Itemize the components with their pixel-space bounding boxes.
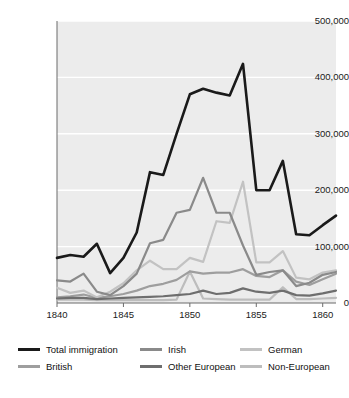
y-axis-tick-0: 0 bbox=[297, 298, 349, 308]
legend-swatch-german bbox=[240, 348, 262, 351]
x-axis-tick-1850: 1850 bbox=[170, 310, 210, 320]
legend-item-british[interactable]: British bbox=[18, 361, 72, 372]
legend-row-2: British Other European Non-European bbox=[18, 361, 338, 378]
x-axis-tick-1855: 1855 bbox=[236, 310, 276, 320]
y-axis-tick-400000: 400,000 bbox=[297, 72, 349, 82]
y-axis-tick-100000: 100,000 bbox=[297, 242, 349, 252]
legend-label-german: German bbox=[268, 344, 302, 355]
chart-legend: Total immigration Irish German British O… bbox=[18, 344, 338, 378]
chart-canvas bbox=[0, 0, 349, 398]
legend-label-other-european: Other European bbox=[168, 361, 236, 372]
legend-label-british: British bbox=[46, 361, 72, 372]
immigration-line-chart: 0100,000200,000300,000400,000500,000 184… bbox=[0, 0, 349, 398]
legend-item-non-european[interactable]: Non-European bbox=[240, 361, 330, 372]
legend-label-total-immigration: Total immigration bbox=[46, 344, 118, 355]
legend-item-total-immigration[interactable]: Total immigration bbox=[18, 344, 118, 355]
legend-row-1: Total immigration Irish German bbox=[18, 344, 338, 361]
legend-item-german[interactable]: German bbox=[240, 344, 302, 355]
y-axis-tick-200000: 200,000 bbox=[297, 185, 349, 195]
x-axis-tick-1845: 1845 bbox=[103, 310, 143, 320]
legend-item-other-european[interactable]: Other European bbox=[140, 361, 236, 372]
y-axis-tick-500000: 500,000 bbox=[297, 16, 349, 26]
legend-swatch-non-european bbox=[240, 365, 262, 368]
legend-swatch-british bbox=[18, 365, 40, 368]
x-axis-tick-1840: 1840 bbox=[37, 310, 77, 320]
legend-label-non-european: Non-European bbox=[268, 361, 330, 372]
legend-swatch-other-european bbox=[140, 365, 162, 368]
legend-label-irish: Irish bbox=[168, 344, 186, 355]
legend-item-irish[interactable]: Irish bbox=[140, 344, 186, 355]
legend-swatch-total-immigration bbox=[18, 348, 40, 351]
x-axis-tick-1860: 1860 bbox=[303, 310, 343, 320]
y-axis-tick-300000: 300,000 bbox=[297, 129, 349, 139]
legend-swatch-irish bbox=[140, 348, 162, 351]
